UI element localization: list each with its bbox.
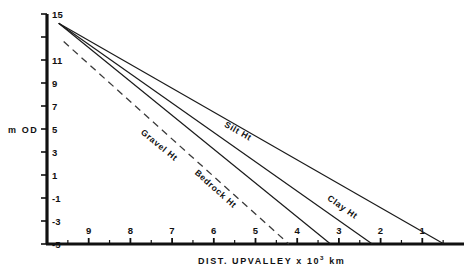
x-axis-title-main: DIST. UPVALLEY x 10: [198, 256, 320, 266]
y-tick-label: 3: [52, 147, 57, 158]
series-label-silt-ht: Silt Ht: [223, 119, 254, 142]
y-tick-label: 7: [52, 101, 57, 112]
chart-page: 151197531-1-3-5 987654321 Silt HtClay Ht…: [0, 0, 470, 273]
y-tick-label: -1: [52, 193, 61, 204]
series-line-clay-ht: [59, 23, 373, 244]
x-tick-label: 8: [128, 225, 133, 236]
series-line-gravel-ht: [59, 23, 331, 244]
x-tick-label: 2: [378, 225, 383, 236]
series-label-bedrock-ht: Bedrock Ht: [193, 167, 239, 210]
y-tick-label: -3: [52, 216, 61, 227]
series-labels: Silt HtClay HtGravel HtBedrock Ht: [139, 119, 360, 221]
x-tick-label: 5: [253, 225, 259, 236]
line-chart: 151197531-1-3-5 987654321 Silt HtClay Ht…: [0, 0, 470, 273]
y-tick-label: -5: [52, 239, 61, 250]
y-tick-label: 15: [52, 9, 63, 20]
x-axis-title: DIST. UPVALLEY x 103 km: [198, 254, 345, 266]
y-axis-tick-labels: 151197531-1-3-5: [52, 9, 63, 250]
x-tick-label: 4: [294, 225, 300, 236]
series-label-gravel-ht: Gravel Ht: [139, 127, 180, 163]
x-tick-label: 3: [336, 225, 341, 236]
x-axis-tick-labels: 987654321: [86, 225, 426, 236]
y-tick-label: 11: [52, 55, 63, 66]
x-axis-title-unit: km: [325, 256, 345, 266]
y-axis-title: m OD: [8, 125, 38, 135]
x-tick-label: 7: [169, 225, 174, 236]
x-tick-label: 9: [86, 225, 91, 236]
series-line-bedrock-ht: [64, 42, 289, 244]
series-label-clay-ht: Clay Ht: [326, 193, 360, 221]
y-tick-label: 5: [52, 124, 58, 135]
y-tick-label: 1: [52, 170, 58, 181]
x-tick-label: 6: [211, 225, 216, 236]
svg-text:DIST. UPVALLEY x 103 km: DIST. UPVALLEY x 103 km: [198, 254, 345, 266]
y-tick-label: 9: [52, 78, 57, 89]
